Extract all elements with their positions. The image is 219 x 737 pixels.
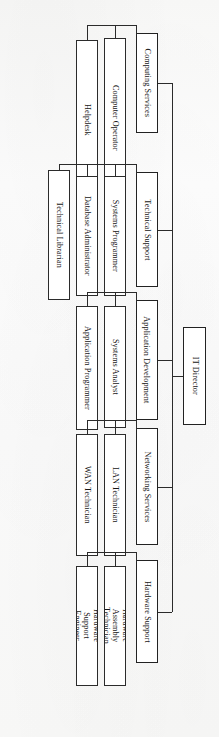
child-bus-0	[87, 25, 136, 26]
child-bus-4	[87, 552, 136, 553]
dept-connector-1	[158, 230, 172, 231]
node-department-4[interactable]: Hardware Support	[136, 560, 158, 663]
node-role-1-1[interactable]: Database Administrator	[76, 176, 98, 296]
node-role-4-0[interactable]: Hardware Assembly Technician	[104, 566, 126, 686]
node-role-2-1[interactable]: Application Programmer	[76, 306, 98, 430]
dept-bus-drop-0	[136, 25, 137, 35]
child-tick-1-1	[87, 164, 88, 176]
node-department-1-label: Technical Support	[142, 199, 152, 260]
dept-connector-3	[158, 487, 172, 488]
node-role-4-1-label: Hardware Support Engineer	[76, 609, 98, 642]
dept-bus-drop-4	[136, 552, 137, 562]
root-connector	[172, 376, 183, 377]
node-role-3-0[interactable]: LAN Technician	[104, 434, 126, 556]
node-role-1-1-label: Database Administrator	[82, 196, 92, 276]
node-role-4-0-label: Hardware Assembly Technician	[104, 608, 126, 645]
node-role-2-0-label: Systems Analyst	[110, 339, 120, 395]
node-role-2-0[interactable]: Systems Analyst	[104, 306, 126, 428]
node-role-3-0-label: LAN Technician	[110, 467, 120, 523]
node-department-3-label: Networking Services	[142, 451, 152, 522]
node-department-0[interactable]: Computing Services	[136, 33, 158, 133]
child-tick-2-1	[87, 292, 88, 306]
child-tick-3-0	[115, 420, 116, 434]
child-tick-0-0	[115, 25, 116, 38]
node-it-director-label: IT Director	[190, 357, 200, 395]
node-department-2[interactable]: Application Development	[136, 300, 158, 420]
child-tick-2-0	[115, 292, 116, 306]
dept-connector-2	[158, 360, 172, 361]
node-role-2-1-label: Application Programmer	[82, 326, 92, 410]
dept-connector-4	[158, 612, 172, 613]
dept-bus-drop-3	[136, 420, 137, 430]
child-bus-1	[59, 164, 136, 165]
node-role-1-0[interactable]: Systems Programmer	[104, 176, 126, 296]
child-tick-3-1	[87, 420, 88, 434]
child-tick-1-0	[115, 164, 116, 176]
node-role-1-2[interactable]: Technical Librarian	[48, 170, 70, 300]
dept-bus-drop-2	[136, 292, 137, 302]
child-tick-4-0	[115, 552, 116, 566]
node-department-0-label: Computing Services	[142, 49, 152, 117]
node-role-0-0-label: Computer Operator	[110, 85, 120, 151]
node-department-2-label: Application Development	[142, 316, 152, 403]
node-role-1-0-label: Systems Programmer	[110, 200, 120, 272]
node-it-director[interactable]: IT Director	[183, 327, 206, 425]
node-role-0-1-label: Helpdesk	[82, 104, 92, 136]
node-department-1[interactable]: Technical Support	[136, 172, 158, 287]
child-tick-0-1	[87, 25, 88, 40]
org-chart: IT DirectorComputing ServicesComputer Op…	[0, 0, 219, 737]
child-bus-2	[87, 292, 136, 293]
node-role-3-1[interactable]: WAN Technician	[76, 434, 98, 556]
child-tick-1-2	[59, 164, 60, 170]
node-department-3[interactable]: Networking Services	[136, 428, 158, 545]
child-tick-4-1	[87, 552, 88, 566]
node-role-1-2-label: Technical Librarian	[54, 202, 64, 268]
child-bus-3	[87, 420, 136, 421]
node-role-3-1-label: WAN Technician	[82, 466, 92, 524]
dept-bus-drop-1	[136, 164, 137, 174]
trunk-line	[172, 83, 173, 612]
dept-connector-0	[158, 83, 172, 84]
node-department-4-label: Hardware Support	[142, 581, 152, 643]
node-role-4-1[interactable]: Hardware Support Engineer	[76, 566, 98, 686]
